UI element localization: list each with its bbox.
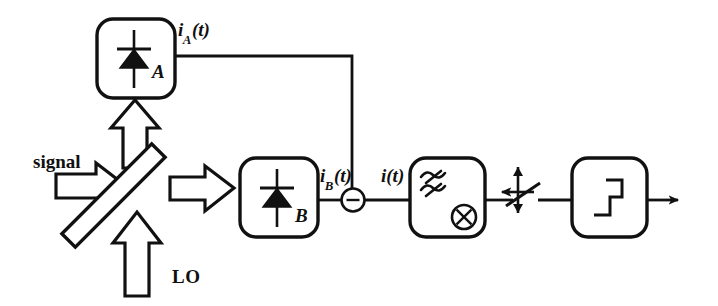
lo-input-label: LO bbox=[172, 267, 200, 286]
detector-a-label: A bbox=[152, 62, 165, 81]
subtractor-node bbox=[342, 189, 365, 212]
receiver-diagram: signal LO A B iA(t) iB(t) i(t) bbox=[0, 0, 718, 306]
detector-a-box bbox=[97, 19, 175, 98]
threshold-block bbox=[572, 158, 647, 237]
current-total-label: i(t) bbox=[381, 166, 404, 185]
current-ib-subscript: B bbox=[325, 178, 334, 193]
circled-times-icon bbox=[452, 205, 476, 229]
signal-input-label: signal bbox=[33, 152, 81, 171]
current-ib-arg: (t) bbox=[334, 165, 352, 186]
sampler-switch bbox=[502, 167, 540, 213]
filter-mixer-block bbox=[410, 158, 485, 237]
diagram-canvas bbox=[0, 0, 718, 306]
current-total-arg: (t) bbox=[386, 165, 404, 186]
detector-b-label: B bbox=[295, 206, 308, 225]
current-ia-arg: (t) bbox=[192, 19, 210, 40]
current-ia-label: iA(t) bbox=[178, 20, 210, 44]
lo-input-arrow bbox=[113, 212, 161, 296]
current-ib-label: iB(t) bbox=[320, 166, 352, 190]
current-ia-subscript: A bbox=[183, 32, 192, 47]
arrow-to-detector-b bbox=[170, 166, 234, 211]
